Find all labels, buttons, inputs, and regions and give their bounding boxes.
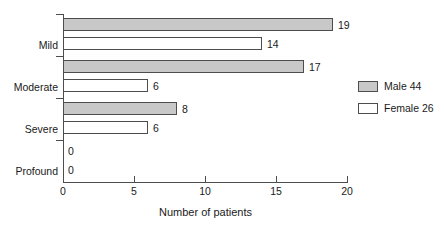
x-axis-title: Number of patients (63, 207, 348, 218)
bar-group-mild: 19 14 (63, 18, 347, 50)
bar-row-mild-female: 14 (63, 37, 347, 50)
bar-severe-female (63, 121, 148, 134)
x-axis-tick-10 (205, 176, 206, 182)
legend-swatch-male-icon (358, 81, 378, 92)
bar-value-severe-male: 8 (182, 103, 188, 114)
bar-group-severe: 8 6 (63, 102, 347, 134)
bar-row-mild-male: 19 (63, 18, 347, 31)
bar-moderate-male (63, 60, 304, 73)
bar-row-severe-male: 8 (63, 102, 347, 115)
x-axis-label-5: 5 (119, 186, 149, 197)
plot-area: 19 14 17 6 8 (63, 14, 347, 182)
x-axis-tick-15 (276, 176, 277, 182)
x-axis-label-0: 0 (48, 186, 78, 197)
bar-value-moderate-male: 17 (309, 61, 321, 72)
x-axis-tick-0 (63, 176, 64, 182)
legend-item-female: Female 26 (358, 101, 434, 115)
x-axis-label-10: 10 (190, 186, 220, 197)
bar-mild-female (63, 37, 262, 50)
bar-row-profound-female: 0 (63, 163, 347, 176)
bar-value-moderate-female: 6 (153, 80, 159, 91)
bar-row-severe-female: 6 (63, 121, 347, 134)
legend: Male 44 Female 26 (358, 79, 434, 123)
bar-group-profound: 0 0 (63, 144, 347, 176)
bar-moderate-female (63, 79, 148, 92)
category-label-mild: Mild (39, 40, 58, 51)
category-label-severe: Severe (25, 124, 58, 135)
x-axis-line (63, 182, 348, 183)
bar-mild-male (63, 18, 333, 31)
bar-row-profound-male: 0 (63, 144, 347, 157)
category-label-moderate: Moderate (14, 82, 58, 93)
x-axis-label-15: 15 (261, 186, 291, 197)
bar-row-moderate-female: 6 (63, 79, 347, 92)
bar-chart: Mild Moderate Severe Profound 19 14 17 (0, 0, 445, 239)
bar-value-mild-female: 14 (267, 38, 279, 49)
bar-value-profound-female: 0 (68, 164, 74, 175)
bar-value-severe-female: 6 (153, 122, 159, 133)
bar-severe-male (63, 102, 177, 115)
legend-swatch-female-icon (358, 103, 378, 114)
bar-value-mild-male: 19 (338, 19, 350, 30)
category-label-profound: Profound (15, 166, 58, 177)
bar-group-moderate: 17 6 (63, 60, 347, 92)
x-axis-tick-5 (134, 176, 135, 182)
x-axis-tick-20 (347, 176, 348, 182)
legend-label-male: Male 44 (384, 81, 421, 92)
legend-item-male: Male 44 (358, 79, 434, 93)
bar-row-moderate-male: 17 (63, 60, 347, 73)
category-labels: Mild Moderate Severe Profound (0, 14, 58, 182)
x-axis-label-20: 20 (332, 186, 362, 197)
bar-value-profound-male: 0 (68, 145, 74, 156)
legend-label-female: Female 26 (384, 103, 434, 114)
